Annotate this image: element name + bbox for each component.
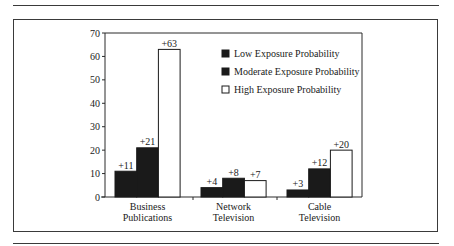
bar (223, 178, 245, 197)
y-tick-label: 60 (90, 51, 100, 62)
y-tick-label: 70 (90, 28, 100, 39)
category-label: Network (216, 201, 251, 212)
legend-label: Low Exposure Probability (234, 48, 340, 59)
category-label: Television (213, 212, 255, 223)
y-tick-label: 0 (95, 192, 100, 203)
bar-value-label: +20 (333, 139, 349, 150)
bar-group: +3+12+20CableTelevision (287, 139, 352, 223)
bar-value-label: +11 (118, 160, 133, 171)
bar (115, 171, 137, 197)
y-tick-label: 30 (90, 121, 100, 132)
legend-swatch (222, 86, 229, 93)
bar (137, 148, 159, 197)
bar-value-label: +3 (293, 178, 304, 189)
legend-item: Moderate Exposure Probability (222, 66, 360, 77)
y-tick-label: 40 (90, 98, 100, 109)
chart-legend: Low Exposure ProbabilityModerate Exposur… (222, 48, 360, 95)
bar (201, 188, 223, 197)
legend-swatch (222, 50, 229, 57)
legend-label: Moderate Exposure Probability (234, 66, 360, 77)
bar (309, 169, 331, 197)
bar (244, 181, 266, 197)
bar-value-label: +8 (228, 167, 239, 178)
bar-value-label: +21 (140, 136, 156, 147)
category-label: Publications (123, 212, 173, 223)
bar-group: +4+8+7NetworkTelevision (201, 167, 266, 223)
y-tick-label: 10 (90, 168, 100, 179)
category-label: Cable (308, 201, 332, 212)
legend-swatch (222, 68, 229, 75)
bar (287, 190, 309, 197)
bar-value-label: +63 (161, 38, 177, 49)
bar-value-label: +7 (250, 169, 261, 180)
category-label: Business (130, 201, 166, 212)
bar-value-label: +4 (207, 176, 218, 187)
legend-item: Low Exposure Probability (222, 48, 340, 59)
bar-chart: 010203040506070 +11+21+63BusinessPublica… (0, 0, 454, 246)
y-tick-label: 50 (90, 74, 100, 85)
bar-value-label: +12 (312, 157, 328, 168)
bar (330, 150, 352, 197)
bar-group: +11+21+63BusinessPublications (115, 38, 180, 223)
legend-item: High Exposure Probability (222, 84, 341, 95)
y-tick-label: 20 (90, 145, 100, 156)
category-label: Television (299, 212, 341, 223)
legend-label: High Exposure Probability (234, 84, 341, 95)
bar (158, 49, 180, 197)
